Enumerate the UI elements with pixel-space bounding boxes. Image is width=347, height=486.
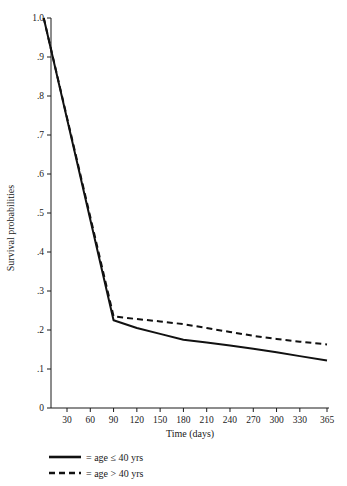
y-axis-tick-group: 0.1.2.3.4.5.6.7.8.91.0 bbox=[32, 13, 51, 413]
y-tick-label: .4 bbox=[37, 247, 44, 257]
x-tick-label: 365 bbox=[320, 415, 335, 425]
legend-item-age-over-40: = age > 40 yrs bbox=[49, 468, 143, 479]
survival-curve-chart: 0.1.2.3.4.5.6.7.8.91.0 30609012015018021… bbox=[0, 0, 347, 486]
legend-label-age-under-40: = age ≤ 40 yrs bbox=[86, 452, 143, 463]
x-axis-tick-group: 306090120150180210240270300330365 bbox=[62, 408, 334, 425]
y-axis-title: Survival probabilities bbox=[5, 185, 16, 271]
y-tick-label: .6 bbox=[37, 169, 44, 179]
y-tick-label: .7 bbox=[37, 130, 44, 140]
chart-svg: 0.1.2.3.4.5.6.7.8.91.0 30609012015018021… bbox=[0, 0, 347, 486]
x-tick-label: 300 bbox=[269, 415, 284, 425]
x-tick-label: 150 bbox=[153, 415, 168, 425]
chart-legend: = age ≤ 40 yrs = age > 40 yrs bbox=[49, 452, 143, 479]
x-tick-label: 210 bbox=[200, 415, 215, 425]
legend-text-0: age ≤ 40 yrs bbox=[94, 452, 143, 463]
y-tick-label: .8 bbox=[37, 91, 44, 101]
x-tick-label: 120 bbox=[130, 415, 145, 425]
x-tick-label: 180 bbox=[176, 415, 191, 425]
y-tick-label: .5 bbox=[37, 208, 44, 218]
x-tick-label: 30 bbox=[62, 415, 72, 425]
y-tick-label: .1 bbox=[37, 364, 44, 374]
series-line-age-over-40 bbox=[44, 18, 327, 344]
x-axis-title: Time (days) bbox=[166, 428, 214, 440]
legend-item-age-under-40: = age ≤ 40 yrs bbox=[49, 452, 143, 463]
x-tick-label: 330 bbox=[293, 415, 308, 425]
y-tick-label: 1.0 bbox=[32, 13, 44, 23]
legend-label-age-over-40: = age > 40 yrs bbox=[86, 468, 143, 479]
y-tick-label: .3 bbox=[37, 286, 44, 296]
x-tick-label: 90 bbox=[109, 415, 119, 425]
y-tick-label: .9 bbox=[37, 52, 44, 62]
y-tick-label: .2 bbox=[37, 325, 44, 335]
x-tick-label: 60 bbox=[86, 415, 96, 425]
series-line-age-under-40 bbox=[44, 18, 327, 360]
x-tick-label: 240 bbox=[223, 415, 238, 425]
legend-text-1: age > 40 yrs bbox=[94, 468, 143, 479]
x-tick-label: 270 bbox=[246, 415, 261, 425]
y-tick-label: 0 bbox=[39, 403, 44, 413]
